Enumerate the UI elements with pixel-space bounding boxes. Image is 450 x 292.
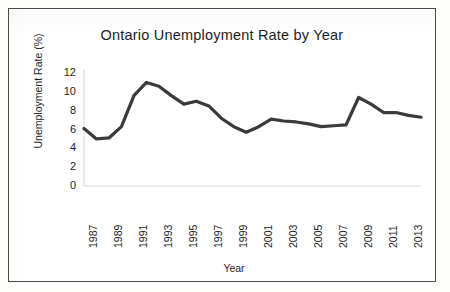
figure-page: Ontario Unemployment Rate by Year Unempl… — [0, 0, 450, 292]
line-chart-svg — [9, 9, 437, 283]
chart-plot-area: Unemployment Rate (%) 024681012 19871989… — [9, 9, 450, 292]
axis-lines — [84, 69, 421, 186]
unemployment-rate-line — [84, 82, 421, 139]
x-axis-title: Year — [9, 262, 450, 274]
figure-border: Ontario Unemployment Rate by Year Unempl… — [8, 8, 436, 282]
